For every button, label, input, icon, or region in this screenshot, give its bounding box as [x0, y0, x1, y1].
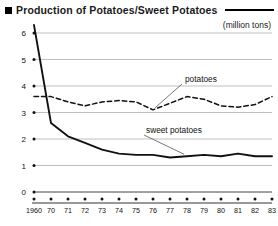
y-tick — [33, 138, 36, 141]
y-tick — [33, 164, 36, 167]
series-label-potatoes: potatoes — [185, 74, 217, 84]
x-tick — [237, 198, 240, 201]
x-tick-label: 80 — [217, 206, 225, 215]
x-tick-label: 76 — [149, 206, 157, 215]
x-tick-label: 74 — [115, 206, 123, 215]
x-tick-label: 79 — [200, 206, 208, 215]
x-tick-label: 72 — [81, 206, 89, 215]
series-label-sweet-potatoes: sweet potatoes — [146, 125, 202, 135]
x-tick-label: 70 — [47, 206, 55, 215]
x-tick-label: 78 — [183, 206, 191, 215]
x-tick — [169, 198, 172, 201]
x-tick-label: 77 — [166, 206, 174, 215]
x-tick-label: 1960 — [26, 206, 42, 215]
x-tick — [50, 198, 53, 201]
leader-line-sweet-potatoes — [144, 135, 184, 154]
x-tick — [203, 198, 206, 201]
x-tick — [84, 198, 87, 201]
y-tick-label: 6 — [22, 29, 27, 38]
x-tick-label: 82 — [251, 206, 259, 215]
x-tick — [101, 198, 104, 201]
y-tick-label: 3 — [22, 109, 27, 118]
y-tick-label: 2 — [22, 135, 27, 144]
y-tick — [33, 58, 36, 61]
x-tick-label: 71 — [64, 206, 72, 215]
x-tick-label: 73 — [98, 206, 106, 215]
y-tick — [33, 191, 36, 194]
chart-container: Production of Potatoes/Sweet Potatoes (m… — [0, 0, 278, 226]
x-tick — [186, 198, 189, 201]
y-axis-ticks — [33, 32, 36, 194]
data-series-group — [34, 25, 272, 158]
y-tick-label: 0 — [22, 188, 27, 197]
y-tick-label: 5 — [22, 56, 27, 65]
x-axis-labels: 19607071727374757677787980818283 — [26, 206, 276, 215]
chart-plot-area: 0123456 19607071727374757677787980818283… — [0, 0, 278, 226]
y-tick — [33, 111, 36, 114]
x-tick — [254, 198, 257, 201]
x-tick — [271, 198, 274, 201]
x-tick-label: 83 — [268, 206, 276, 215]
y-tick-label: 1 — [22, 162, 27, 171]
x-tick-label: 81 — [234, 206, 242, 215]
x-tick — [118, 198, 121, 201]
x-axis-ticks — [33, 198, 274, 201]
series-line-potatoes — [34, 97, 272, 110]
series-line-sweet-potatoes — [34, 25, 272, 158]
x-tick — [135, 198, 138, 201]
x-tick — [67, 198, 70, 201]
y-tick — [33, 85, 36, 88]
x-tick — [152, 198, 155, 201]
y-axis-labels: 0123456 — [22, 29, 27, 197]
x-tick — [220, 198, 223, 201]
x-tick — [33, 198, 36, 201]
y-tick-label: 4 — [22, 82, 27, 91]
gridlines — [34, 33, 272, 192]
x-tick-label: 75 — [132, 206, 140, 215]
